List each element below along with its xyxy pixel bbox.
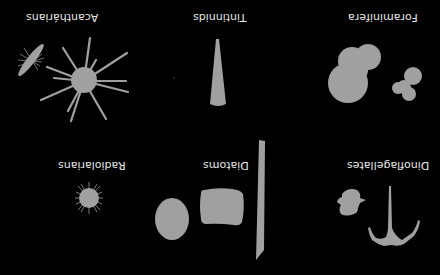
foraminifera-large-icon (328, 44, 381, 103)
label-diatoms: Diatoms (203, 159, 249, 172)
acantharian-body-icon (71, 67, 97, 93)
diatom-square-icon (200, 188, 244, 225)
plankton-illustrations (0, 0, 440, 275)
acantharian-spindle-icon (16, 42, 47, 78)
label-radiolarians: Radiolarians (58, 159, 126, 172)
foraminifera-small-icon (392, 67, 422, 101)
label-acantharians: Acanthárians (26, 11, 98, 24)
dinoflagellate-ceratium-icon (368, 186, 420, 246)
label-foraminifera: Foraminifera (348, 11, 418, 24)
dinoflagellate-blob-icon (337, 189, 366, 215)
radiolarian-icon (75, 182, 103, 214)
plankton-figure: Acanthárians Tintinnids Foraminifera Rad… (0, 0, 440, 275)
label-tintinnids: Tintinnids (193, 11, 247, 24)
tintinnid-lorica-icon (210, 39, 226, 106)
label-dinoflagellates: Dinoflagellates (347, 159, 429, 172)
diatom-oval-icon (155, 198, 189, 240)
diatom-rod-icon (256, 140, 265, 260)
